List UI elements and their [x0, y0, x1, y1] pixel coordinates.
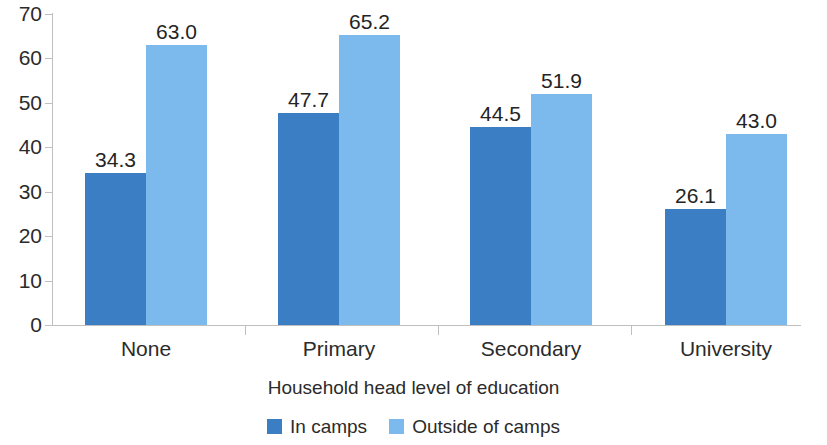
- legend-item[interactable]: In camps: [267, 417, 367, 436]
- x-axis-separator-tick: [245, 326, 246, 335]
- x-axis-separator-tick: [438, 326, 439, 335]
- x-axis-category-label: None: [85, 338, 207, 359]
- bar-value-label: 26.1: [675, 185, 716, 206]
- x-axis-category-label: Primary: [278, 338, 400, 359]
- y-axis-tick: [45, 192, 53, 193]
- y-axis-tick-label: 50: [4, 92, 42, 113]
- y-axis-tick-label: 10: [4, 270, 42, 291]
- bar[interactable]: 44.5: [470, 127, 531, 325]
- x-axis-category-label: University: [665, 338, 787, 359]
- x-axis-line: [52, 325, 801, 326]
- bar-chart: 010203040506070 34.363.047.765.244.551.9…: [0, 0, 827, 445]
- bar-group: 34.363.0: [85, 14, 207, 325]
- y-axis-tick: [45, 325, 53, 326]
- legend-color-swatch: [267, 419, 282, 434]
- bar-value-label: 43.0: [736, 110, 777, 131]
- y-axis-tick-label: 70: [4, 3, 42, 24]
- legend-label: In camps: [290, 417, 367, 436]
- y-axis-tick: [45, 147, 53, 148]
- x-axis-category-label: Secondary: [470, 338, 592, 359]
- legend-color-swatch: [389, 419, 404, 434]
- bar[interactable]: 47.7: [278, 113, 339, 325]
- chart-legend: In campsOutside of camps: [0, 417, 827, 436]
- bar-value-label: 34.3: [95, 149, 136, 170]
- y-axis-tick: [45, 236, 53, 237]
- bar[interactable]: 63.0: [146, 45, 207, 325]
- bar[interactable]: 51.9: [531, 94, 592, 325]
- y-axis-tick-label: 60: [4, 47, 42, 68]
- bar-value-label: 63.0: [156, 21, 197, 42]
- y-axis-line: [52, 13, 53, 326]
- bar[interactable]: 34.3: [85, 173, 146, 325]
- bar-group: 26.143.0: [665, 14, 787, 325]
- x-axis-separator-tick: [631, 326, 632, 335]
- y-axis-tick-label: 40: [4, 136, 42, 157]
- y-axis-tick: [45, 103, 53, 104]
- y-axis-tick: [45, 58, 53, 59]
- bar-value-label: 47.7: [288, 89, 329, 110]
- bar[interactable]: 26.1: [665, 209, 726, 325]
- y-axis-tick-label: 30: [4, 181, 42, 202]
- bar-value-label: 51.9: [541, 70, 582, 91]
- bar[interactable]: 43.0: [726, 134, 787, 325]
- y-axis-tick-label: 20: [4, 225, 42, 246]
- y-axis-tick-label: 0: [4, 314, 42, 335]
- x-axis-title: Household head level of education: [0, 378, 827, 397]
- y-axis-tick: [45, 14, 53, 15]
- bar[interactable]: 65.2: [339, 35, 400, 325]
- y-axis-tick: [45, 281, 53, 282]
- legend-item[interactable]: Outside of camps: [389, 417, 560, 436]
- bar-group: 47.765.2: [278, 14, 400, 325]
- bar-group: 44.551.9: [470, 14, 592, 325]
- legend-label: Outside of camps: [412, 417, 560, 436]
- bar-value-label: 65.2: [349, 11, 390, 32]
- bar-value-label: 44.5: [480, 103, 521, 124]
